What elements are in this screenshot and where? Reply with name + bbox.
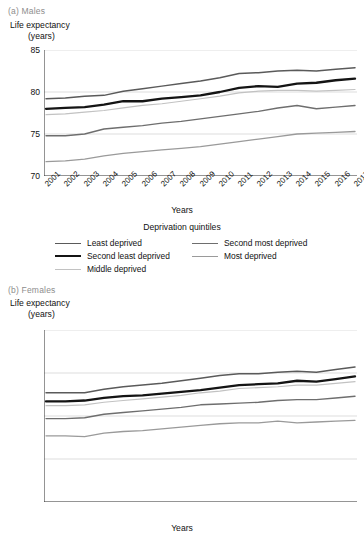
legend-title: Deprivation quintiles: [0, 222, 364, 232]
legend-item-second-most-deprived[interactable]: Second most deprived: [192, 238, 307, 248]
series-line-middle-deprived: [46, 382, 355, 406]
plot-area-females: [44, 330, 357, 502]
legend-line-swatch: [192, 243, 218, 244]
legend-line-swatch: [192, 256, 218, 257]
x-axis-title-males: Years: [0, 205, 364, 215]
panel-label-females: (b) Females: [8, 285, 56, 295]
y-axis-title-line2: (years): [10, 309, 70, 320]
legend-item-label: Least deprived: [87, 238, 142, 248]
y-axis-title-females: Life expectancy (years): [10, 298, 70, 319]
legend-item-label: Middle deprived: [87, 264, 146, 274]
legend-item-label: Second most deprived: [224, 238, 307, 248]
legend-item-middle-deprived[interactable]: Middle deprived: [55, 264, 146, 274]
y-axis-title-line1: Life expectancy: [10, 298, 70, 308]
y-axis-title-line1: Life expectancy: [10, 20, 70, 30]
panel-females: (b) Females Life expectancy (years) 7075…: [0, 280, 364, 551]
chart-svg-males: [44, 50, 357, 176]
legend-line-swatch: [55, 269, 81, 270]
y-tick-label: 70: [20, 171, 40, 181]
y-tick-label: 80: [20, 87, 40, 97]
series-line-most-deprived: [46, 131, 355, 161]
y-axis-title-males: Life expectancy (years): [10, 20, 70, 41]
chart-svg-females: [44, 330, 357, 502]
series-line-middle-deprived: [46, 89, 355, 114]
legend-line-swatch: [55, 243, 81, 244]
legend-item-label: Second least deprived: [87, 251, 170, 261]
panel-males: (a) Males Life expectancy (years) 707580…: [0, 0, 364, 275]
legend: Least deprivedSecond least deprivedMiddl…: [0, 238, 364, 274]
legend-item-second-least-deprived[interactable]: Second least deprived: [55, 251, 170, 261]
legend-item-most-deprived[interactable]: Most deprived: [192, 251, 277, 261]
y-axis-title-line2: (years): [10, 31, 70, 42]
series-line-most-deprived: [46, 420, 355, 436]
panel-label-males: (a) Males: [8, 6, 45, 16]
legend-item-label: Most deprived: [224, 251, 277, 261]
y-tick-label: 85: [20, 45, 40, 55]
legend-line-swatch: [55, 255, 81, 257]
series-line-second-least-deprived: [46, 376, 355, 401]
series-line-second-least-deprived: [46, 79, 355, 109]
plot-area-males: [44, 50, 357, 176]
legend-item-least-deprived[interactable]: Least deprived: [55, 238, 142, 248]
y-tick-label: 75: [20, 129, 40, 139]
series-line-least-deprived: [46, 367, 355, 393]
series-line-second-most-deprived: [46, 105, 355, 135]
x-axis-title-females: Years: [0, 523, 364, 533]
